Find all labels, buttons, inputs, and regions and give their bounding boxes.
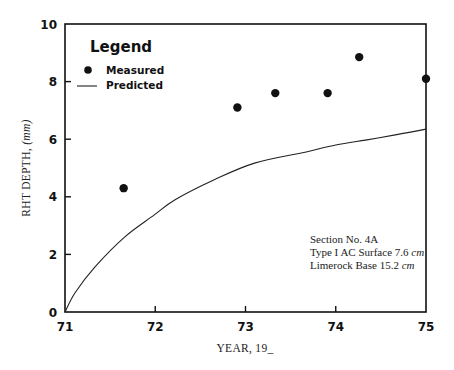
y-tick-label: 2	[49, 248, 57, 262]
annotation-base-text: Limerock Base 15.2	[310, 259, 402, 271]
y-tick-label: 6	[49, 133, 57, 147]
x-tick-label: 74	[327, 320, 344, 334]
annotation-section: Section No. 4A	[310, 233, 378, 245]
chart-svg: 0246810 7172737475 Legend Measured Predi…	[0, 0, 454, 370]
annotation-surface-unit: cm	[411, 246, 424, 258]
measured-data-point	[119, 184, 127, 192]
x-tick-label: 73	[237, 320, 254, 334]
legend-measured-label: Measured	[106, 64, 164, 76]
measured-data-point	[323, 89, 331, 97]
y-axis-label-unit: (mm)	[20, 119, 33, 144]
annotation-base-unit: cm	[402, 259, 415, 271]
section-annotation: Section No. 4A Type I AC Surface 7.6 cm …	[310, 233, 424, 271]
legend-measured-marker-icon	[84, 66, 92, 74]
y-tick-label: 0	[49, 306, 57, 320]
x-axis-label: YEAR, 19_	[216, 342, 273, 355]
measured-data-point	[271, 89, 279, 97]
legend-predicted-label: Predicted	[106, 79, 163, 91]
y-axis-label-text: RHT DEPTH,	[20, 145, 33, 217]
legend-title: Legend	[90, 38, 152, 56]
annotation-surface-text: Type I AC Surface 7.6	[310, 246, 411, 258]
y-tick-label: 10	[40, 18, 57, 32]
measured-points	[119, 53, 430, 192]
legend: Legend Measured Predicted	[77, 38, 164, 91]
x-tick-label: 75	[418, 320, 435, 334]
chart: 0246810 7172737475 Legend Measured Predi…	[0, 0, 454, 370]
measured-data-point	[233, 103, 241, 111]
annotation-surface: Type I AC Surface 7.6 cm	[310, 246, 424, 258]
x-axis-ticks: 7172737475	[57, 306, 435, 334]
y-tick-label: 4	[49, 190, 57, 204]
y-axis-ticks: 0246810	[40, 18, 71, 320]
predicted-line	[65, 129, 426, 312]
measured-data-point	[422, 75, 430, 83]
annotation-base: Limerock Base 15.2 cm	[310, 259, 415, 271]
x-tick-label: 72	[147, 320, 164, 334]
y-tick-label: 8	[49, 75, 57, 89]
y-axis-label: RHT DEPTH, (mm)	[20, 119, 33, 216]
x-tick-label: 71	[57, 320, 74, 334]
measured-data-point	[355, 53, 363, 61]
